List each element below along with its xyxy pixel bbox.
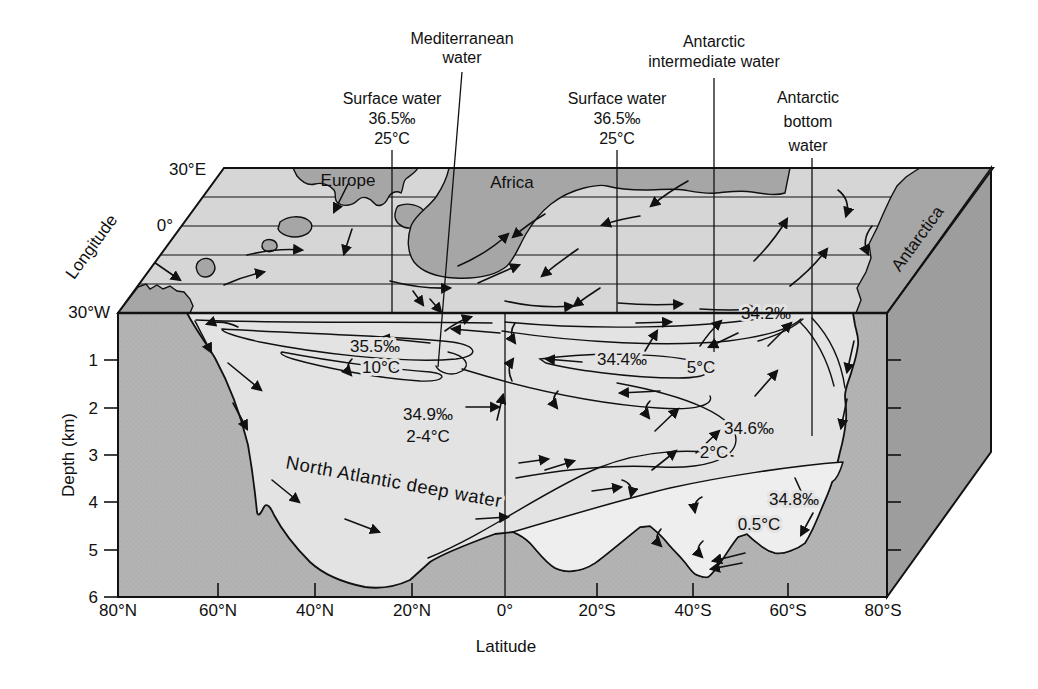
depth-tick-4: 4 — [89, 493, 98, 512]
central-water-temp-label: 10°C — [362, 358, 400, 377]
surface-water-right-label: Surface water — [568, 90, 667, 107]
lat-tick-0: 0° — [497, 601, 513, 620]
antarctic-intermediate-label-line2: intermediate water — [648, 53, 780, 70]
depth-tick-6: 6 — [89, 588, 98, 607]
surface-water-left-temp: 25°C — [374, 130, 410, 147]
lat-tick-20s: 20°S — [578, 601, 615, 620]
europe-label: Europe — [321, 171, 376, 190]
aabw-salinity-label: 34.8‰ — [769, 490, 819, 509]
lat-tick-60n: 60°N — [199, 601, 237, 620]
depth-tick-1: 1 — [89, 351, 98, 370]
island-britain — [278, 217, 312, 237]
lat-tick-20n: 20°N — [393, 601, 431, 620]
lat-tick-80n: 80°N — [99, 601, 137, 620]
surface-water-left-salinity: 36.5‰ — [368, 110, 415, 127]
antarctic-bottom-label-line1: Antarctic — [777, 89, 839, 106]
lat-tick-80s: 80°S — [864, 601, 901, 620]
antarctic-bottom-label-line2: bottom — [784, 113, 833, 130]
figure-canvas: Antarctica Europe Africa — [0, 0, 1038, 689]
cross-section-front-face: 35.5‰ 10°C 34.9‰ 2-4°C 34.4‰ 5°C 34.2‰ 3… — [118, 304, 887, 597]
africa-label: Africa — [490, 173, 534, 192]
mediterranean-water-label-line1: Mediterranean — [410, 30, 513, 47]
lon-tick-30e: 30°E — [169, 160, 206, 179]
latitude-axis-title: Latitude — [476, 637, 537, 656]
nadw-salinity-label: 34.9‰ — [403, 405, 453, 424]
surface-water-left-label: Surface water — [343, 90, 442, 107]
lat-tick-40n: 40°N — [296, 601, 334, 620]
map-top-face: Antarctica Europe Africa — [118, 168, 993, 313]
island-newfoundland — [196, 258, 214, 277]
aaiw-temp-label: 5°C — [687, 358, 716, 377]
depth-tick-2: 2 — [89, 399, 98, 418]
mediterranean-water-label-line2: water — [441, 49, 482, 66]
ocean-section-diagram: Antarctica Europe Africa — [0, 0, 1038, 689]
lat-tick-40s: 40°S — [674, 601, 711, 620]
lat-tick-60s: 60°S — [769, 601, 806, 620]
aabw-temp-label: 0.5°C — [738, 515, 781, 534]
lon-tick-30w: 30°W — [68, 303, 110, 322]
nadw-temp-label: 2-4°C — [406, 427, 450, 446]
antarctic-bottom-label-line3: water — [787, 137, 828, 154]
aaiw-salinity-label: 34.4‰ — [597, 350, 647, 369]
surface-water-right-temp: 25°C — [599, 130, 635, 147]
lon-tick-0: 0° — [157, 216, 173, 235]
circumpolar-salinity-label: 34.6‰ — [724, 419, 774, 438]
central-water-salinity-label: 35.5‰ — [350, 337, 400, 356]
circumpolar-temp-label: 2°C — [700, 443, 729, 462]
surface-water-right-salinity: 36.5‰ — [593, 110, 640, 127]
depth-axis-title: Depth (km) — [59, 413, 78, 497]
antarctic-intermediate-label-line1: Antarctic — [683, 33, 745, 50]
depth-tick-3: 3 — [89, 446, 98, 465]
depth-tick-5: 5 — [89, 541, 98, 560]
